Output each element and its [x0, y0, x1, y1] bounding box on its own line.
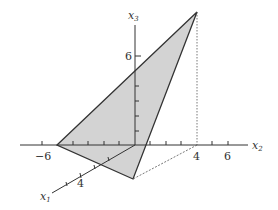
x2-axis-label: x2: [252, 139, 263, 153]
x2-tick-label-4: 4: [193, 150, 200, 163]
x1-tick-label-4: 4: [77, 177, 84, 190]
shaded-triangle: [57, 12, 197, 179]
x2-tick-label-neg6: −6: [35, 150, 51, 163]
x1-axis-label: x1: [40, 190, 51, 204]
x3-axis-label: x3: [128, 9, 139, 23]
x2-tick-label-6: 6: [224, 150, 231, 163]
diagram-canvas: x3 x2 x1 −6 4 6 6 4: [0, 0, 278, 210]
x3-tick-label-6: 6: [125, 50, 132, 63]
